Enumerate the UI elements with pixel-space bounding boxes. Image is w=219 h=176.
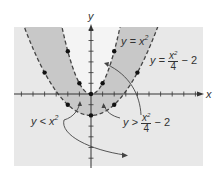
label-text: − 2 — [181, 54, 197, 66]
label-text: y > — [123, 116, 138, 128]
data-point — [89, 92, 93, 96]
label-y-equals-x-squared: y = x2 — [121, 34, 148, 47]
label-exponent: 2 — [145, 34, 149, 41]
graph-plot — [0, 0, 219, 176]
data-point — [66, 49, 70, 53]
label-y-less-than-x-squared: y < x2 — [31, 114, 58, 127]
data-point — [112, 49, 116, 53]
fraction: x2 4 — [168, 50, 178, 72]
label-text: − 2 — [154, 116, 170, 128]
label-y-equals-x-squared-over-4-minus-2: y = x2 4 − 2 — [150, 50, 197, 72]
data-point — [66, 103, 70, 107]
data-point — [77, 81, 81, 85]
label-text: y < x — [31, 115, 55, 127]
label-y-greater-than-curve: y > x2 4 − 2 — [123, 112, 170, 134]
data-point — [42, 70, 46, 74]
fraction: x2 4 — [141, 112, 151, 134]
x-axis-label: x — [206, 89, 212, 100]
data-point — [135, 70, 139, 74]
label-exponent: 2 — [55, 114, 59, 121]
label-text: y = — [150, 54, 165, 66]
fraction-denominator: 4 — [170, 62, 176, 72]
fraction-denominator: 4 — [143, 124, 149, 134]
data-point — [112, 103, 116, 107]
y-axis-label: y — [88, 11, 94, 22]
label-text: y = x — [121, 35, 145, 47]
data-point — [89, 113, 93, 117]
data-point — [100, 81, 104, 85]
